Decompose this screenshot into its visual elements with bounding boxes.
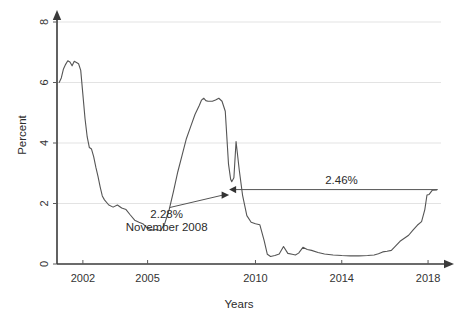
y-tick-label-8: 8 [38, 19, 50, 25]
x-axis-title: Years [225, 298, 254, 310]
callout-date-label: November 2008 [126, 221, 208, 233]
x-tick-label-2002: 2002 [71, 272, 95, 284]
chart-container: 02468 20022005201020142018 2.46% 2.28% N… [0, 0, 456, 330]
chart-background [0, 0, 456, 330]
y-tick-label-4: 4 [38, 140, 50, 146]
line-chart: 02468 20022005201020142018 2.46% 2.28% N… [0, 0, 456, 330]
y-tick-label-2: 2 [38, 200, 50, 206]
y-axis-title: Percent [16, 114, 28, 154]
x-tick-label-2005: 2005 [135, 272, 159, 284]
callout-value-label: 2.28% [150, 208, 183, 220]
span-value-label: 2.46% [325, 174, 358, 186]
x-tick-label-2010: 2010 [243, 272, 267, 284]
x-tick-label-2014: 2014 [330, 272, 354, 284]
x-tick-label-2018: 2018 [416, 272, 440, 284]
y-tick-label-6: 6 [38, 79, 50, 85]
y-tick-label-0: 0 [38, 261, 50, 267]
